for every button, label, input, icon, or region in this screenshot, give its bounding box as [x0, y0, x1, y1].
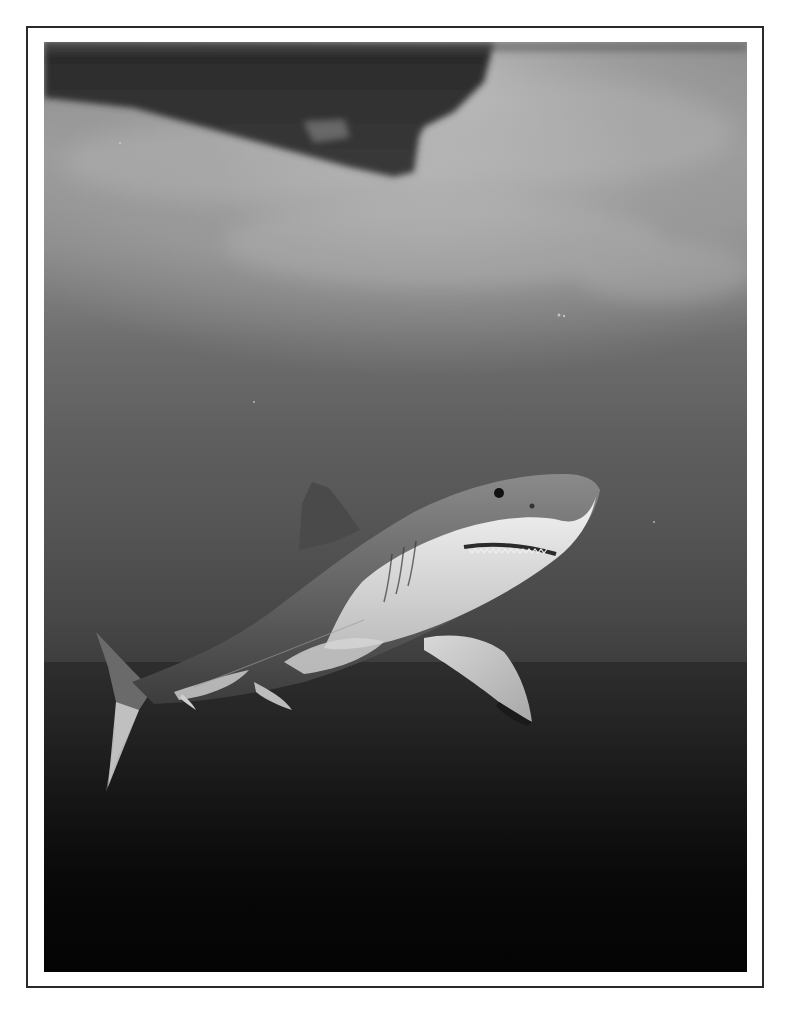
deep-water: [44, 662, 747, 972]
shark-eye: [494, 488, 504, 498]
photo-scene: [44, 42, 747, 972]
shark-dorsal-fin: [299, 482, 360, 550]
shark-photograph: [44, 42, 747, 972]
